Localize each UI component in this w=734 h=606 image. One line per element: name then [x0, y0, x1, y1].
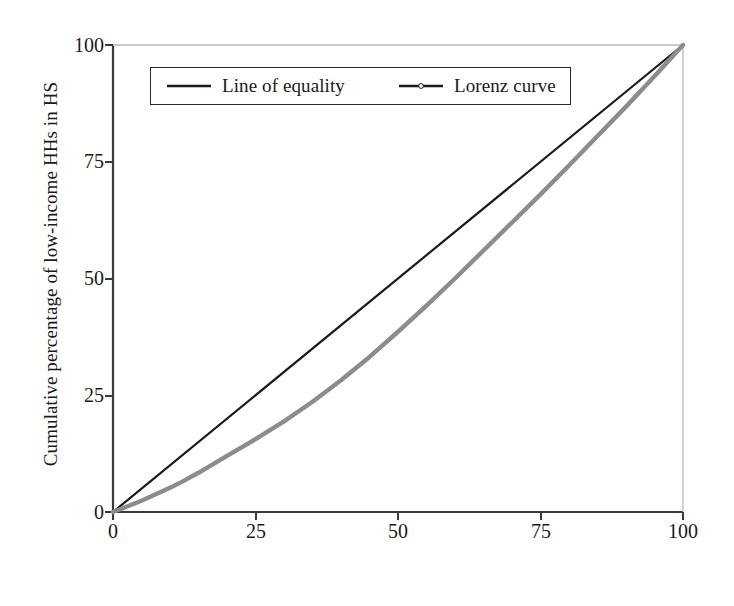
- x-axis-ticks: [113, 512, 683, 520]
- y-axis-ticks: [105, 45, 113, 512]
- series-line-line-of-equality: [113, 45, 683, 512]
- legend-label: Lorenz curve: [454, 76, 556, 95]
- dotted-marker-line-swatch-icon: [397, 79, 445, 93]
- data-series-layer: [113, 45, 683, 512]
- legend-entry-line-of-equality: Line of equality: [165, 76, 345, 95]
- solid-line-swatch-icon: [165, 79, 213, 93]
- legend-entry-lorenz-curve: Lorenz curve: [397, 76, 556, 95]
- lorenz-curve-figure: Cumulative percentage of low-income HHs …: [0, 0, 734, 606]
- legend-label: Line of equality: [222, 76, 345, 95]
- chart-legend: Line of equality Lorenz curve: [150, 67, 571, 105]
